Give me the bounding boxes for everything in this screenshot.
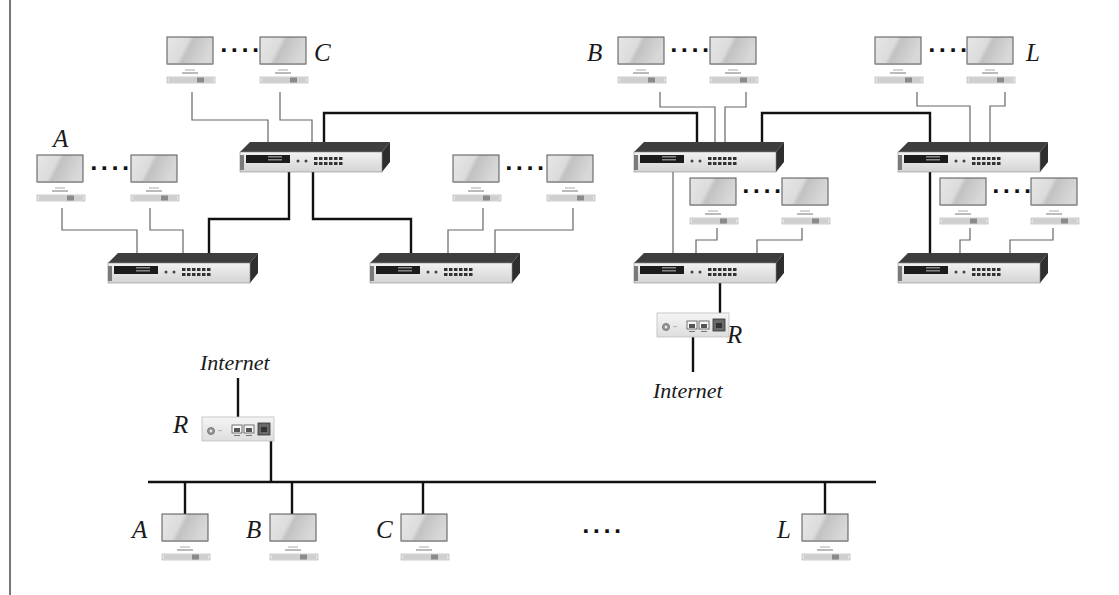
switch-s4 bbox=[634, 142, 784, 172]
computer-icon bbox=[547, 155, 595, 201]
ellipsis: ···· bbox=[220, 40, 262, 60]
computer-icon bbox=[940, 178, 988, 224]
switch-s2 bbox=[108, 253, 258, 283]
host-label-b: B bbox=[246, 517, 261, 542]
computer-icon bbox=[782, 178, 830, 224]
router-label: R bbox=[727, 322, 742, 347]
switch-s3 bbox=[370, 253, 520, 283]
computer-icon bbox=[401, 514, 449, 560]
computer-icon bbox=[260, 37, 308, 83]
switch-s6 bbox=[898, 142, 1048, 172]
bus-links bbox=[148, 378, 876, 514]
computer-icon bbox=[802, 514, 850, 560]
computer-icon bbox=[875, 37, 923, 83]
group-label-l: L bbox=[1026, 40, 1040, 65]
group-label-b: B bbox=[587, 40, 602, 65]
computer-icon bbox=[131, 155, 179, 201]
ellipsis: ···· bbox=[582, 521, 624, 541]
computer-icon bbox=[967, 37, 1015, 83]
computer-icon bbox=[162, 514, 210, 560]
switch-s7 bbox=[898, 253, 1048, 283]
computer-icon bbox=[453, 155, 501, 201]
ellipsis: ···· bbox=[90, 158, 132, 178]
internet-label: Internet bbox=[653, 380, 723, 402]
computer-icon bbox=[710, 37, 758, 83]
ellipsis: ···· bbox=[992, 181, 1034, 201]
switch-s1 bbox=[240, 142, 390, 172]
network-diagram bbox=[0, 0, 1119, 595]
computer-icon bbox=[270, 514, 318, 560]
computer-icon bbox=[690, 178, 738, 224]
computer-icon bbox=[1031, 178, 1079, 224]
ellipsis: ···· bbox=[928, 40, 970, 60]
ellipsis: ···· bbox=[505, 158, 547, 178]
ellipsis: ···· bbox=[670, 40, 712, 60]
group-label-c: C bbox=[314, 40, 331, 65]
ellipsis: ···· bbox=[742, 181, 784, 201]
router-label: R bbox=[173, 412, 188, 437]
computer-icon bbox=[37, 155, 85, 201]
router-icon bbox=[202, 417, 274, 441]
switch-s5 bbox=[634, 253, 784, 283]
computer-icon bbox=[167, 37, 215, 83]
computer-icon bbox=[618, 37, 666, 83]
internet-label: Internet bbox=[200, 352, 270, 374]
group-label-a: A bbox=[53, 126, 68, 151]
host-label-l: L bbox=[777, 517, 791, 542]
host-label-a: A bbox=[132, 517, 147, 542]
router-icon bbox=[657, 313, 729, 337]
host-label-c: C bbox=[376, 517, 393, 542]
